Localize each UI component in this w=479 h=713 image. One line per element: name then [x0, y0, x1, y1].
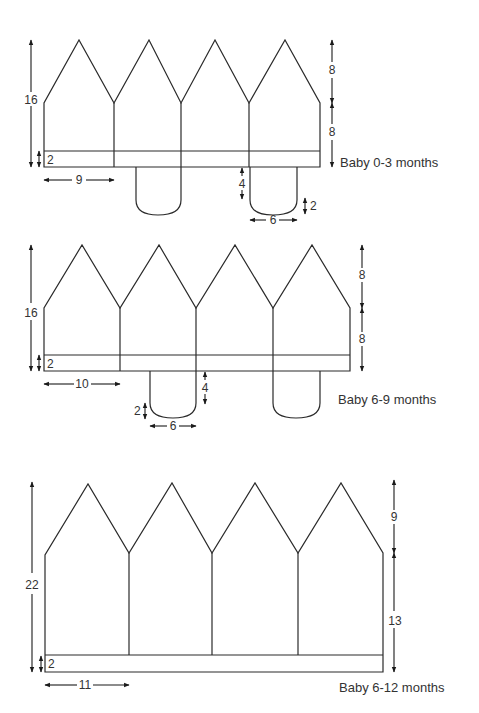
diagram-6-9-months: 16 2 10 8 8 4 2 6 Baby 6-9 months	[24, 245, 436, 433]
band-height-label: 2	[47, 357, 54, 371]
hat-pattern-diagrams: 16 2 9 8 8 4 2 6 Baby 0-3 months	[0, 0, 479, 713]
panel-width-label: 11	[79, 678, 92, 692]
point-height-label: 9	[391, 510, 398, 524]
strap-width-label: 6	[270, 213, 277, 227]
total-height-label: 16	[24, 93, 38, 107]
strap-length-label: 4	[202, 381, 209, 395]
band-height-label: 2	[48, 657, 55, 671]
point-height-label: 8	[329, 63, 336, 77]
diagram-6-12-months: 22 2 11 9 13 Baby 6-12 months	[25, 480, 445, 695]
size-title: Baby 6-12 months	[339, 680, 445, 695]
strap-width-label: 6	[170, 419, 177, 433]
ear-flap-right	[273, 371, 320, 418]
panel-width-label: 10	[75, 377, 89, 391]
crown-outline	[45, 483, 383, 672]
strap-curve-label: 2	[310, 199, 317, 213]
lower-height-label: 8	[359, 332, 366, 346]
total-height-label: 16	[24, 306, 38, 320]
diagram-0-3-months: 16 2 9 8 8 4 2 6 Baby 0-3 months	[24, 40, 438, 227]
band-height-label: 2	[47, 153, 54, 167]
strap-curve-label: 2	[134, 404, 141, 418]
lower-height-label: 13	[388, 614, 402, 628]
lower-height-label: 8	[329, 125, 336, 139]
total-height-label: 22	[25, 578, 39, 592]
ear-flap-left	[136, 167, 181, 215]
strap-length-label: 4	[239, 177, 246, 191]
crown-outline	[44, 245, 350, 371]
ear-flap-left	[150, 371, 196, 418]
panel-width-label: 9	[76, 173, 83, 187]
size-title: Baby 0-3 months	[340, 155, 439, 170]
point-height-label: 8	[359, 268, 366, 282]
size-title: Baby 6-9 months	[338, 392, 437, 407]
ear-flap-right	[250, 167, 297, 215]
crown-outline	[44, 40, 320, 167]
